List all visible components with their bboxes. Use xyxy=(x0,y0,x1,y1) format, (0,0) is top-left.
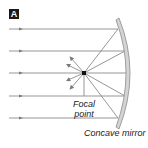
focal-point-label-line1: Focal xyxy=(71,99,97,109)
concave-mirror-diagram: A Focal point Concave mirror xyxy=(0,0,148,148)
focal-point-label-line2: point xyxy=(71,109,97,119)
ray-diagram xyxy=(0,0,148,148)
incoming-rays xyxy=(9,29,127,118)
focal-point-label: Focal point xyxy=(71,99,97,119)
ray-arrowheads xyxy=(19,28,23,120)
panel-label: A xyxy=(9,9,19,19)
focal-point-marker xyxy=(82,71,86,75)
concave-mirror-label: Concave mirror xyxy=(84,128,146,138)
concave-mirror xyxy=(116,18,130,129)
